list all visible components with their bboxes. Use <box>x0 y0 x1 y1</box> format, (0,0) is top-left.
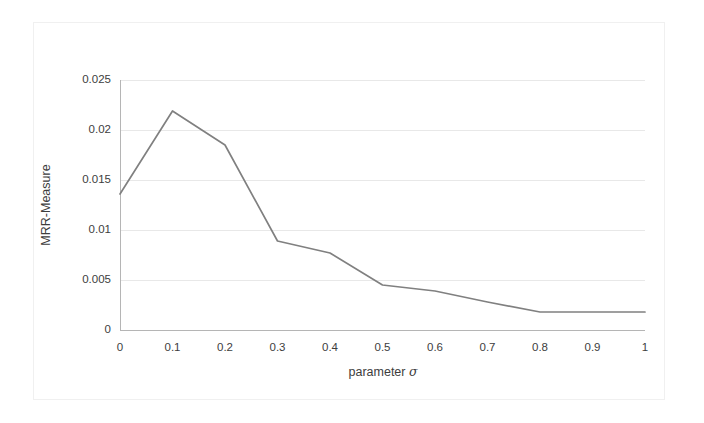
sigma-symbol: σ <box>409 364 418 379</box>
x-tick-label: 0.2 <box>205 342 245 354</box>
x-tick-label: 0.9 <box>573 342 613 354</box>
y-tick-label: 0.02 <box>89 124 111 136</box>
y-tick-label: 0 <box>105 324 111 336</box>
x-tick-label: 0.5 <box>363 342 403 354</box>
x-tick-label: 0.6 <box>415 342 455 354</box>
y-tick-label: 0.01 <box>89 224 111 236</box>
axis-lines <box>120 80 645 331</box>
x-axis-title: parameter σ <box>349 366 418 379</box>
x-tick-label: 0 <box>100 342 140 354</box>
x-tick-label: 0.3 <box>258 342 298 354</box>
y-tick-label: 0.015 <box>82 174 111 186</box>
gridlines <box>120 81 645 281</box>
x-tick-label: 0.8 <box>520 342 560 354</box>
x-axis-title-text: parameter <box>349 365 409 379</box>
y-axis-title: MRR-Measure <box>40 164 53 245</box>
x-tick-label: 0.7 <box>468 342 508 354</box>
x-tick-label: 1 <box>625 342 665 354</box>
x-tick-label: 0.4 <box>310 342 350 354</box>
line-chart-plot <box>0 0 704 423</box>
data-series-line <box>120 111 645 312</box>
y-tick-label: 0.005 <box>82 274 111 286</box>
x-tick-label: 0.1 <box>153 342 193 354</box>
y-tick-label: 0.025 <box>82 74 111 86</box>
